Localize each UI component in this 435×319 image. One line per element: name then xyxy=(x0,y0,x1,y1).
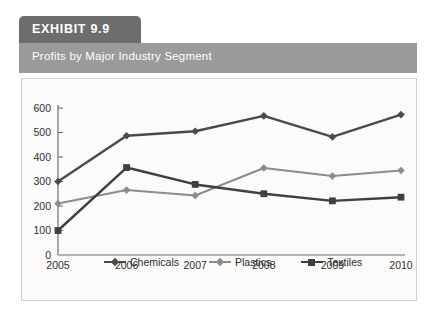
x-axis-tick-label: 2010 xyxy=(389,259,413,271)
exhibit-figure: EXHIBIT 9.9 Profits by Major Industry Se… xyxy=(0,0,435,319)
legend-label-chemicals: Chemicals xyxy=(130,256,179,268)
series-line-plastics xyxy=(58,168,401,204)
data-point-textiles-2006 xyxy=(123,164,130,171)
data-point-plastics-2010 xyxy=(397,167,405,175)
legend-entry-plastics[interactable]: Plastics xyxy=(209,256,271,268)
exhibit-subtitle-bar: Profits by Major Industry Segment xyxy=(19,43,417,73)
legend-label-plastics: Plastics xyxy=(235,256,271,268)
legend-swatch-plastics-icon xyxy=(209,257,231,267)
data-point-textiles-2008 xyxy=(260,190,267,197)
y-axis-tick-label: 200 xyxy=(33,200,51,212)
legend-entry-chemicals[interactable]: Chemicals xyxy=(104,256,179,268)
y-axis-tick-label: 300 xyxy=(33,175,51,187)
data-point-chemicals-2008 xyxy=(260,112,268,120)
data-point-plastics-2009 xyxy=(329,172,337,180)
data-point-textiles-2005 xyxy=(55,227,62,234)
data-point-plastics-2006 xyxy=(123,186,131,194)
exhibit-subtitle-label: Profits by Major Industry Segment xyxy=(32,50,212,62)
chart-legend: ChemicalsPlasticsTextiles xyxy=(104,256,362,268)
legend-swatch-textiles-icon xyxy=(301,257,323,267)
data-point-chemicals-2010 xyxy=(397,111,405,119)
data-point-chemicals-2009 xyxy=(329,133,337,141)
exhibit-badge: EXHIBIT 9.9 xyxy=(19,16,141,43)
data-point-chemicals-2007 xyxy=(191,127,199,135)
y-axis-tick-label: 500 xyxy=(33,126,51,138)
series-line-chemicals xyxy=(58,115,401,182)
data-point-plastics-2008 xyxy=(260,164,268,172)
exhibit-badge-label: EXHIBIT 9.9 xyxy=(32,22,110,36)
series-line-textiles xyxy=(58,168,401,231)
data-point-plastics-2007 xyxy=(191,192,199,200)
y-axis-tick-label: 400 xyxy=(33,151,51,163)
legend-swatch-chemicals-icon xyxy=(104,257,126,267)
y-axis-tick-label: 100 xyxy=(33,224,51,236)
legend-label-textiles: Textiles xyxy=(327,256,362,268)
data-point-textiles-2010 xyxy=(398,194,405,201)
data-point-textiles-2007 xyxy=(192,181,199,188)
y-axis-tick-label: 600 xyxy=(33,102,51,114)
x-axis-tick-label: 2005 xyxy=(46,259,70,271)
data-point-textiles-2009 xyxy=(329,197,336,204)
legend-entry-textiles[interactable]: Textiles xyxy=(301,256,362,268)
